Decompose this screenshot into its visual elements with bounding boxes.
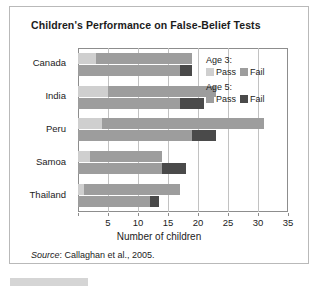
bar-segment (78, 86, 108, 97)
y-axis-label-thailand: Thailand (30, 189, 66, 200)
bar-group (78, 114, 288, 147)
legend-group: Age 3:PassFail (206, 55, 286, 77)
bar-segment (78, 130, 192, 141)
legend-item-pass: Pass (206, 94, 236, 104)
legend-label: Pass (216, 67, 236, 77)
bar-segment (78, 53, 96, 64)
bar-segment (78, 98, 180, 109)
source-label: Source (31, 250, 60, 260)
legend-swatch-icon (206, 95, 214, 103)
bar-age-3 (78, 118, 264, 129)
bar-segment (150, 196, 159, 207)
bar-segment (108, 86, 216, 97)
bar-segment (78, 163, 162, 174)
bar-segment (78, 151, 90, 162)
legend-label: Fail (250, 94, 265, 104)
legend-label: Fail (250, 67, 265, 77)
x-tick-mark (138, 213, 139, 216)
bar-segment (78, 196, 150, 207)
legend-item-fail: Fail (240, 67, 265, 77)
legend-heading: Age 5: (206, 82, 286, 92)
bar-age-5 (78, 196, 159, 207)
plot-area: Age 3:PassFailAge 5:PassFail (78, 48, 288, 212)
bar-age-5 (78, 130, 216, 141)
bar-segment (102, 118, 264, 129)
chart-title: Children's Performance on False-Belief T… (31, 19, 261, 31)
bar-group (78, 146, 288, 179)
bar-segment (162, 163, 186, 174)
x-axis-title: Number of children (10, 231, 308, 242)
x-tick-mark (258, 213, 259, 216)
x-tick-mark (78, 213, 79, 216)
bar-age-3 (78, 53, 192, 64)
x-tick-mark (288, 213, 289, 216)
bar-age-3 (78, 151, 162, 162)
y-axis-labels: CanadaIndiaPeruSamoaThailand (10, 48, 72, 212)
bar-group (78, 179, 288, 212)
bar-age-3 (78, 86, 216, 97)
x-tick-label-10: 10 (133, 217, 144, 228)
x-tick-label-25: 25 (223, 217, 234, 228)
y-axis-label-samoa: Samoa (36, 156, 66, 167)
source-note: Source: Callaghan et al., 2005. (31, 250, 155, 260)
x-tick-label-20: 20 (193, 217, 204, 228)
x-tick-mark (228, 213, 229, 216)
legend-swatch-icon (240, 68, 248, 76)
x-tick-label-35: 35 (283, 217, 294, 228)
source-citation: : Callaghan et al., 2005. (60, 250, 155, 260)
legend-label: Pass (216, 94, 236, 104)
legend-item-pass: Pass (206, 67, 236, 77)
legend-row: PassFail (206, 67, 286, 77)
bar-age-5 (78, 98, 204, 109)
legend-group: Age 5:PassFail (206, 82, 286, 104)
x-axis-ticks: 5101520253035 (78, 213, 288, 229)
bar-segment (96, 53, 192, 64)
figure-panel: Children's Performance on False-Belief T… (9, 6, 309, 264)
bar-age-5 (78, 65, 192, 76)
legend-row: PassFail (206, 94, 286, 104)
legend-heading: Age 3: (206, 55, 286, 65)
x-tick-mark (108, 213, 109, 216)
y-axis-label-canada: Canada (33, 57, 66, 68)
bar-segment (180, 98, 204, 109)
page-bottom-strip (10, 278, 88, 286)
legend-swatch-icon (206, 68, 214, 76)
bar-segment (84, 184, 180, 195)
bar-segment (192, 130, 216, 141)
chart-legend: Age 3:PassFailAge 5:PassFail (206, 55, 286, 109)
bar-age-3 (78, 184, 180, 195)
x-tick-mark (168, 213, 169, 216)
x-tick-label-5: 5 (105, 217, 110, 228)
legend-swatch-icon (240, 95, 248, 103)
x-tick-label-15: 15 (163, 217, 174, 228)
x-tick-label-30: 30 (253, 217, 264, 228)
bar-age-5 (78, 163, 186, 174)
y-axis-label-india: India (45, 90, 66, 101)
bar-segment (90, 151, 162, 162)
legend-item-fail: Fail (240, 94, 265, 104)
bar-segment (78, 118, 102, 129)
bar-segment (180, 65, 192, 76)
bar-segment (78, 65, 180, 76)
x-tick-mark (198, 213, 199, 216)
y-axis-label-peru: Peru (46, 123, 66, 134)
